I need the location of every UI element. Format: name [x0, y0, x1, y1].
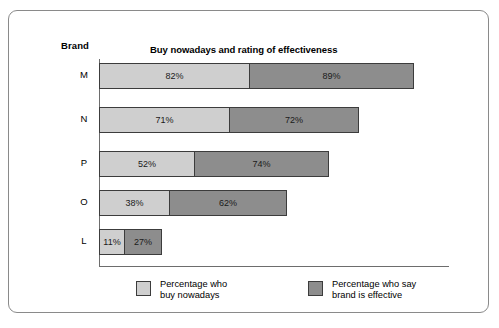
bar-segment-effective-p[interactable]: 74% — [194, 151, 329, 177]
bar-segment-buy-nowadays-m[interactable]: 82% — [99, 63, 250, 89]
bar-segment-effective-n[interactable]: 72% — [229, 107, 359, 133]
category-label-m: M — [77, 69, 91, 80]
bar-value-label: 72% — [285, 115, 303, 125]
category-label-o: O — [77, 196, 91, 207]
plot-area: M 82% 89% N 71% 72% P 52% 74% — [99, 59, 451, 267]
legend-label-line2: buy nowadays — [160, 290, 227, 301]
bar-value-label: 52% — [138, 159, 156, 169]
bar-value-label: 38% — [125, 198, 143, 208]
bar-value-label: 89% — [322, 71, 340, 81]
chart-title: Buy nowadays and rating of effectiveness — [150, 44, 338, 55]
legend-item-buy-nowadays[interactable]: Percentage who buy nowadays — [136, 279, 227, 301]
bar-segment-buy-nowadays-l[interactable]: 11% — [99, 229, 125, 255]
legend-swatch-icon — [308, 281, 323, 296]
legend-label-line1: Percentage who say — [332, 279, 416, 290]
bar-segment-effective-l[interactable]: 27% — [124, 229, 162, 255]
legend-label-brand-effective: Percentage who say brand is effective — [332, 279, 416, 301]
bar-value-label: 11% — [103, 237, 120, 247]
figure-frame: Brand Buy nowadays and rating of effecti… — [8, 10, 489, 313]
legend-item-brand-effective[interactable]: Percentage who say brand is effective — [308, 279, 416, 301]
bar-segment-effective-o[interactable]: 62% — [169, 190, 287, 216]
bar-value-label: 82% — [165, 71, 183, 81]
legend-label-line1: Percentage who — [160, 279, 227, 290]
category-label-n: N — [77, 113, 91, 124]
bar-segment-effective-m[interactable]: 89% — [249, 63, 414, 89]
chart-legend: Percentage who buy nowadays Percentage w… — [136, 279, 466, 313]
legend-swatch-icon — [136, 281, 151, 296]
bar-segment-buy-nowadays-o[interactable]: 38% — [99, 190, 170, 216]
legend-label-buy-nowadays: Percentage who buy nowadays — [160, 279, 227, 301]
bar-value-label: 74% — [252, 159, 270, 169]
bar-value-label: 27% — [134, 237, 152, 247]
bar-segment-buy-nowadays-p[interactable]: 52% — [99, 151, 195, 177]
x-axis-line — [99, 266, 449, 267]
bar-value-label: 71% — [155, 115, 173, 125]
category-label-p: P — [77, 157, 91, 168]
legend-label-line2: brand is effective — [332, 290, 416, 301]
y-axis-title: Brand — [61, 40, 89, 51]
bar-segment-buy-nowadays-n[interactable]: 71% — [99, 107, 230, 133]
bar-value-label: 62% — [219, 198, 237, 208]
category-label-l: L — [77, 235, 91, 246]
